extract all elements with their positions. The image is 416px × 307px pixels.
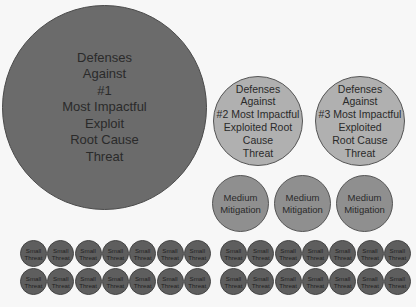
small-threat-circle: Small Threat bbox=[47, 268, 74, 295]
secondary-defense-label: Defenses Against #2 Most Impactful Explo… bbox=[217, 83, 300, 160]
small-threat-label: Small Threat bbox=[161, 247, 179, 261]
small-threat-circle: Small Threat bbox=[329, 240, 356, 267]
medium-mitigation-circle: Medium Mitigation bbox=[212, 175, 269, 232]
small-threat-label: Small Threat bbox=[79, 275, 97, 289]
small-threat-circle: Small Threat bbox=[184, 268, 211, 295]
small-threat-circle: Small Threat bbox=[357, 268, 384, 295]
small-threat-circle: Small Threat bbox=[129, 240, 156, 267]
small-threat-label: Small Threat bbox=[106, 247, 124, 261]
small-threat-label: Small Threat bbox=[306, 247, 324, 261]
small-threat-circle: Small Threat bbox=[157, 268, 184, 295]
small-threat-label: Small Threat bbox=[225, 247, 243, 261]
small-threat-circle: Small Threat bbox=[220, 268, 247, 295]
secondary-defense-circle-3: Defenses Against #3 Most Impactful Explo… bbox=[315, 76, 405, 166]
small-threat-circle: Small Threat bbox=[275, 268, 302, 295]
small-threat-label: Small Threat bbox=[52, 247, 70, 261]
small-threat-label: Small Threat bbox=[134, 275, 152, 289]
small-threat-label: Small Threat bbox=[134, 247, 152, 261]
small-threat-circle: Small Threat bbox=[302, 240, 329, 267]
small-threat-label: Small Threat bbox=[279, 275, 297, 289]
small-threat-circle: Small Threat bbox=[47, 240, 74, 267]
primary-defense-circle: Defenses Against #1 Most Impactful Explo… bbox=[2, 5, 207, 210]
small-threat-label: Small Threat bbox=[334, 275, 352, 289]
small-threat-label: Small Threat bbox=[279, 247, 297, 261]
small-threat-circle: Small Threat bbox=[247, 240, 274, 267]
medium-mitigation-circle: Medium Mitigation bbox=[274, 175, 331, 232]
primary-defense-label: Defenses Against #1 Most Impactful Explo… bbox=[62, 50, 147, 166]
small-threat-label: Small Threat bbox=[188, 247, 206, 261]
small-threat-circle: Small Threat bbox=[102, 240, 129, 267]
small-threat-circle: Small Threat bbox=[184, 240, 211, 267]
medium-mitigation-label: Medium Mitigation bbox=[344, 192, 385, 215]
small-threat-circle: Small Threat bbox=[129, 268, 156, 295]
secondary-defense-label: Defenses Against #3 Most Impactful Explo… bbox=[319, 83, 402, 160]
small-threat-circle: Small Threat bbox=[75, 240, 102, 267]
small-threat-circle: Small Threat bbox=[102, 268, 129, 295]
small-threat-label: Small Threat bbox=[252, 247, 270, 261]
small-threat-label: Small Threat bbox=[161, 275, 179, 289]
small-threat-circle: Small Threat bbox=[247, 268, 274, 295]
small-threat-label: Small Threat bbox=[52, 275, 70, 289]
small-threat-circle: Small Threat bbox=[275, 240, 302, 267]
secondary-defense-circle-2: Defenses Against #2 Most Impactful Explo… bbox=[213, 76, 303, 166]
small-threat-label: Small Threat bbox=[79, 247, 97, 261]
small-threat-label: Small Threat bbox=[334, 247, 352, 261]
small-threat-label: Small Threat bbox=[361, 247, 379, 261]
small-threat-circle: Small Threat bbox=[157, 240, 184, 267]
medium-mitigation-label: Medium Mitigation bbox=[282, 192, 323, 215]
medium-mitigation-label: Medium Mitigation bbox=[220, 192, 261, 215]
small-threat-label: Small Threat bbox=[25, 275, 43, 289]
small-threat-circle: Small Threat bbox=[220, 240, 247, 267]
small-threat-circle: Small Threat bbox=[384, 268, 411, 295]
small-threat-label: Small Threat bbox=[106, 275, 124, 289]
small-threat-circle: Small Threat bbox=[357, 240, 384, 267]
small-threat-label: Small Threat bbox=[388, 275, 406, 289]
small-threat-circle: Small Threat bbox=[384, 240, 411, 267]
small-threat-label: Small Threat bbox=[25, 247, 43, 261]
small-threat-label: Small Threat bbox=[252, 275, 270, 289]
small-threat-circle: Small Threat bbox=[329, 268, 356, 295]
small-threat-label: Small Threat bbox=[388, 247, 406, 261]
small-threat-label: Small Threat bbox=[361, 275, 379, 289]
small-threat-label: Small Threat bbox=[188, 275, 206, 289]
small-threat-circle: Small Threat bbox=[75, 268, 102, 295]
small-threat-circle: Small Threat bbox=[20, 240, 47, 267]
small-threat-circle: Small Threat bbox=[302, 268, 329, 295]
small-threat-label: Small Threat bbox=[306, 275, 324, 289]
medium-mitigation-circle: Medium Mitigation bbox=[336, 175, 393, 232]
small-threat-circle: Small Threat bbox=[20, 268, 47, 295]
small-threat-label: Small Threat bbox=[225, 275, 243, 289]
